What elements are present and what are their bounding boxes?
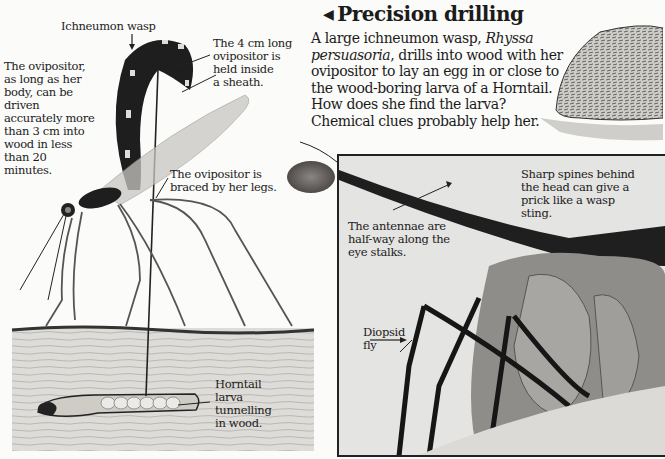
section-heading: ◀Precision drilling [323, 2, 524, 26]
intro-paragraph: A large ichneumon wasp, Rhyssa persuasor… [311, 30, 571, 130]
left-arrow-icon: ◀ [323, 6, 333, 22]
label-ichneumon-wasp: Ichneumon wasp [61, 20, 156, 33]
label-sheath: The 4 cm long ovipositor is held inside … [213, 37, 308, 89]
label-sharp-spines: Sharp spines behind the head can give a … [521, 168, 661, 220]
label-diopsid-fly: Diopsid fly [363, 326, 423, 352]
label-ovipositor-length: The ovipositor, as long as her body, can… [4, 60, 114, 177]
heading-title: Precision drilling [337, 2, 523, 26]
label-antennae: The antennae are half-way along the eye … [348, 220, 478, 259]
label-horntail-larva: Horntail larva tunnelling in wood. [215, 378, 305, 430]
label-braced-by-legs: The ovipositor is braced by her legs. [170, 168, 285, 194]
